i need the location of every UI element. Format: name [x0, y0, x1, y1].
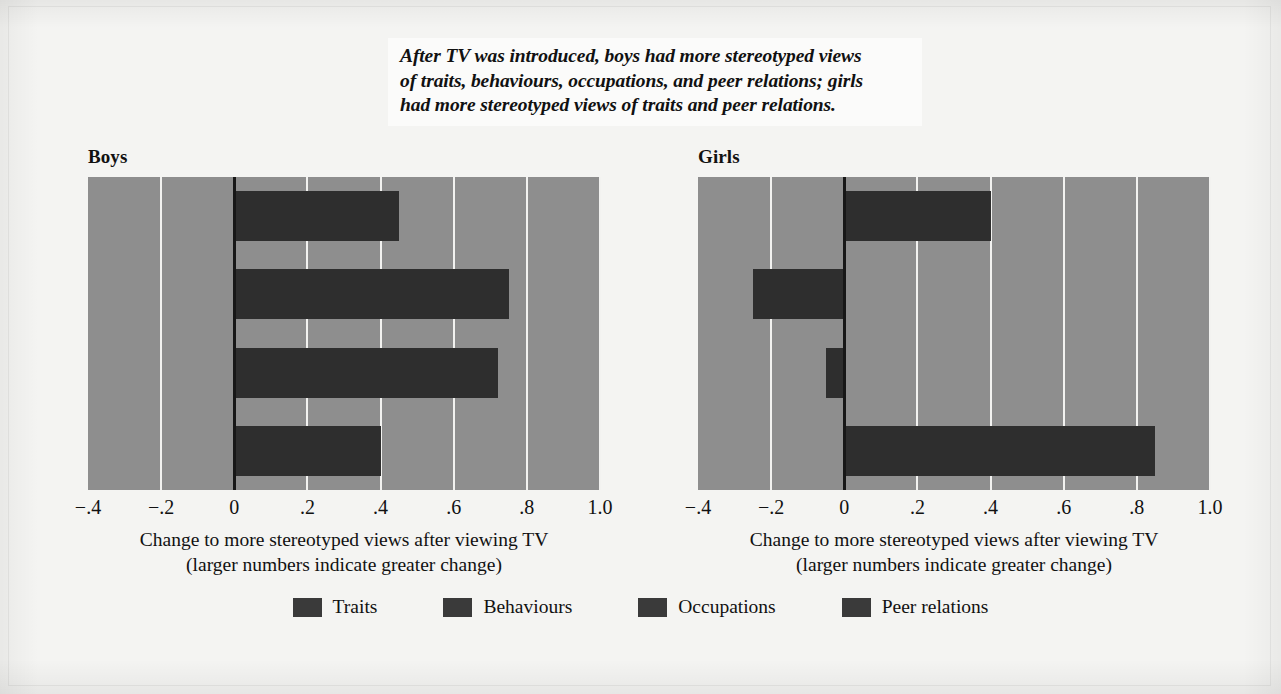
x-tick-label: −.2: [758, 496, 784, 519]
x-tick-label: 1.0: [1198, 496, 1223, 519]
x-tick-label: −.2: [148, 496, 174, 519]
gridline: [770, 177, 772, 490]
x-tick-label: −.4: [685, 496, 711, 519]
x-tick-label: .6: [446, 496, 461, 519]
legend-label: Behaviours: [483, 596, 572, 618]
plot-area-girls: [698, 177, 1210, 490]
x-axis-title-line2: (larger numbers indicate greater change): [88, 553, 600, 578]
bar-behaviours: [753, 269, 844, 319]
legend-item: Peer relations: [842, 596, 989, 618]
bar-traits: [234, 191, 399, 241]
zero-axis-line: [843, 177, 846, 490]
bar-occupations: [234, 348, 497, 398]
gridline: [1209, 177, 1211, 490]
gridline: [160, 177, 162, 490]
plot-area-boys: [88, 177, 600, 490]
legend-item: Traits: [293, 596, 378, 618]
gridline: [453, 177, 455, 490]
x-axis-title-line1: Change to more stereotyped views after v…: [88, 528, 600, 553]
bar-traits: [844, 191, 990, 241]
x-tick-label: .2: [910, 496, 925, 519]
bar-occupations: [826, 348, 844, 398]
legend-swatch-icon: [638, 598, 667, 617]
caption-line-2: of traits, behaviours, occupations, and …: [400, 69, 912, 94]
x-axis-ticks-boys: −.4−.20.2.4.6.81.0: [88, 496, 600, 522]
x-tick-label: .2: [300, 496, 315, 519]
bar-peer-relations: [234, 426, 380, 476]
zero-axis-line: [233, 177, 236, 490]
figure-caption: After TV was introduced, boys had more s…: [388, 38, 922, 126]
chart-legend: TraitsBehavioursOccupationsPeer relation…: [0, 596, 1281, 618]
figure-page: After TV was introduced, boys had more s…: [0, 0, 1281, 694]
legend-label: Peer relations: [882, 596, 989, 618]
legend-label: Occupations: [678, 596, 775, 618]
x-tick-label: .8: [1129, 496, 1144, 519]
legend-swatch-icon: [842, 598, 871, 617]
x-axis-title-boys: Change to more stereotyped views after v…: [88, 528, 600, 578]
x-tick-label: .6: [1056, 496, 1071, 519]
x-tick-label: −.4: [75, 496, 101, 519]
bar-behaviours: [234, 269, 508, 319]
x-tick-label: 0: [839, 496, 849, 519]
x-axis-title-girls: Change to more stereotyped views after v…: [698, 528, 1210, 578]
x-tick-label: .4: [373, 496, 388, 519]
bar-peer-relations: [844, 426, 1155, 476]
legend-label: Traits: [333, 596, 378, 618]
x-axis-title-line1: Change to more stereotyped views after v…: [698, 528, 1210, 553]
x-axis-ticks-girls: −.4−.20.2.4.6.81.0: [698, 496, 1210, 522]
x-tick-label: 1.0: [588, 496, 613, 519]
legend-swatch-icon: [443, 598, 472, 617]
x-tick-label: 0: [229, 496, 239, 519]
legend-item: Occupations: [638, 596, 775, 618]
x-tick-label: .4: [983, 496, 998, 519]
gridline: [526, 177, 528, 490]
caption-line-3: had more stereotyped views of traits and…: [400, 93, 912, 118]
gridline: [599, 177, 601, 490]
panel-title-boys: Boys: [88, 146, 127, 168]
x-axis-title-line2: (larger numbers indicate greater change): [698, 553, 1210, 578]
caption-line-1: After TV was introduced, boys had more s…: [400, 44, 912, 69]
legend-swatch-icon: [293, 598, 322, 617]
x-tick-label: .8: [519, 496, 534, 519]
panel-title-girls: Girls: [698, 146, 740, 168]
legend-item: Behaviours: [443, 596, 572, 618]
